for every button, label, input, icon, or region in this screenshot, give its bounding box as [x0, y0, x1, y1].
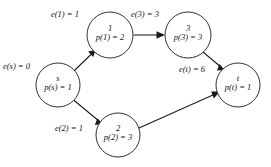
node-external-label-3: e(3) = 3 [131, 10, 159, 19]
node-external-label-t: e(t) = 6 [179, 65, 205, 74]
node-p-2: p(2) = 3 [80, 133, 156, 142]
node-label-2: 2 p(2) = 3 [80, 124, 156, 142]
node-external-label-s: e(s) = 0 [3, 62, 30, 71]
edge-3-to-t [203, 52, 225, 71]
node-p-t: p(t) = 1 [200, 83, 271, 92]
node-external-label-1: e(1) = 1 [51, 10, 79, 19]
node-external-label-2: e(2) = 1 [55, 124, 83, 133]
diagram-canvas: s p(s) = 1 e(s) = 0 1 p(1) = 2 e(1) = 1 … [0, 0, 271, 167]
node-label-1: 1 p(1) = 2 [72, 24, 148, 42]
node-p-s: p(s) = 1 [20, 83, 96, 92]
node-label-t: t p(t) = 1 [200, 74, 271, 92]
edge-s-to-2 [73, 100, 103, 125]
edge-s-to-1 [75, 50, 96, 71]
node-label-s: s p(s) = 1 [20, 74, 96, 92]
edge-2-to-t [139, 91, 220, 128]
node-p-1: p(1) = 2 [72, 33, 148, 42]
node-label-3: 3 p(3) = 3 [150, 24, 226, 42]
node-p-3: p(3) = 3 [150, 33, 226, 42]
